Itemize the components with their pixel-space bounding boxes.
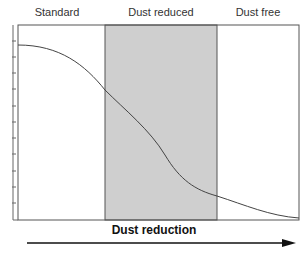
chart-plot — [0, 0, 308, 254]
dust-reduced-region — [105, 25, 217, 220]
arrow-head-icon — [282, 239, 296, 247]
x-axis-title: Dust reduction — [0, 223, 308, 237]
